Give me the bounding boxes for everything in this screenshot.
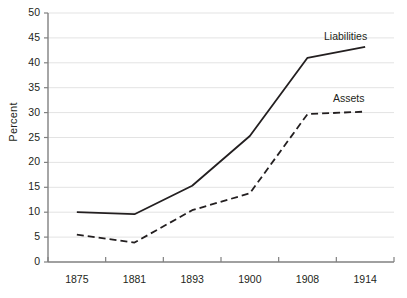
series-line-liabilities <box>77 47 365 214</box>
y-tick-label: 5 <box>14 231 40 242</box>
x-tick-label: 1900 <box>221 274 279 285</box>
y-axis-title: Percent <box>7 87 19 157</box>
x-tick-label: 1875 <box>48 274 106 285</box>
x-tick-label: 1893 <box>163 274 221 285</box>
x-axis-ticks <box>48 257 394 262</box>
y-tick-label: 0 <box>14 256 40 267</box>
y-tick-label: 50 <box>14 7 40 18</box>
y-tick-label: 15 <box>14 181 40 192</box>
line-chart: Percent 05101520253035404550 18751881189… <box>0 0 407 298</box>
series-lines <box>77 47 365 243</box>
y-tick-label: 35 <box>14 82 40 93</box>
y-tick-label: 40 <box>14 57 40 68</box>
y-tick-label: 45 <box>14 32 40 43</box>
series-label-assets: Assets <box>333 92 365 104</box>
series-label-liabilities: Liabilities <box>324 30 367 42</box>
series-line-assets <box>77 112 365 243</box>
y-tick-label: 30 <box>14 107 40 118</box>
y-tick-label: 10 <box>14 206 40 217</box>
y-tick-label: 20 <box>14 156 40 167</box>
gridlines <box>48 13 394 237</box>
x-tick-label: 1914 <box>336 274 394 285</box>
y-tick-label: 25 <box>14 132 40 143</box>
chart-canvas <box>0 0 407 298</box>
x-tick-label: 1908 <box>279 274 337 285</box>
x-tick-label: 1881 <box>106 274 164 285</box>
